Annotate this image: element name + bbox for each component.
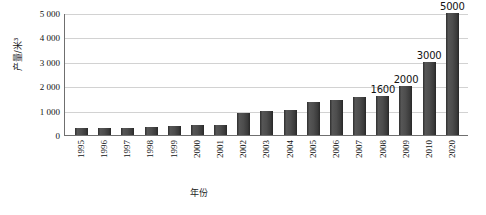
y-axis-tick-label: 1 000	[40, 107, 60, 117]
bar-slot: 5000	[441, 14, 464, 135]
x-label-slot: 1999	[162, 138, 185, 182]
bar-slot	[232, 14, 255, 135]
x-axis-tick-label: 2002	[238, 140, 248, 158]
bar-value-label: 1600	[370, 84, 395, 95]
bar-slot: 1600	[371, 14, 394, 135]
x-axis-title: 年份	[190, 186, 208, 199]
bar[interactable]	[145, 127, 158, 135]
x-axis-tick-label: 2009	[401, 140, 411, 158]
bar[interactable]	[98, 128, 111, 135]
bar-slot	[140, 14, 163, 135]
x-axis-tick-label: 2003	[261, 140, 271, 158]
x-axis-tick-label: 1998	[145, 140, 155, 158]
bar-slot	[93, 14, 116, 135]
x-label-slot: 2002	[232, 138, 255, 182]
x-label-slot: 2006	[325, 138, 348, 182]
bar[interactable]	[168, 126, 181, 135]
x-label-slot: 2001	[208, 138, 231, 182]
x-label-slot: 1996	[92, 138, 115, 182]
bar[interactable]	[191, 125, 204, 135]
x-label-slot: 2007	[348, 138, 371, 182]
x-axis-tick-label: 1997	[122, 140, 132, 158]
x-axis-tick-label: 1999	[169, 140, 179, 158]
bar-slot	[255, 14, 278, 135]
bar[interactable]	[330, 100, 343, 135]
bar-slot	[186, 14, 209, 135]
x-axis-tick-label: 2006	[331, 140, 341, 158]
bar[interactable]	[353, 97, 366, 135]
x-axis-tick-label: 2020	[447, 140, 457, 158]
y-axis-tick-label: 3 000	[40, 58, 60, 68]
bar[interactable]	[284, 110, 297, 135]
y-axis-tick-labels: 01 0002 0003 0004 0005 000	[22, 14, 60, 136]
x-axis-tick-label: 2010	[424, 140, 434, 158]
x-axis-tick-label: 2008	[378, 140, 388, 158]
bar[interactable]: 5000	[446, 13, 459, 135]
x-label-slot: 2005	[301, 138, 324, 182]
bar-value-label: 2000	[394, 74, 419, 85]
bar[interactable]: 3000	[423, 62, 436, 135]
bar[interactable]	[237, 113, 250, 135]
bar-slot: 2000	[394, 14, 417, 135]
bar[interactable]: 2000	[399, 86, 412, 135]
x-axis-tick-label: 1996	[99, 140, 109, 158]
y-axis-tick-label: 5 000	[40, 9, 60, 19]
x-label-slot: 2008	[371, 138, 394, 182]
x-label-slot: 2000	[185, 138, 208, 182]
bar-slot	[116, 14, 139, 135]
x-axis-tick-label: 1995	[76, 140, 86, 158]
x-label-slot: 1998	[139, 138, 162, 182]
bar-chart: 产量/米³ 01 0002 0003 0004 0005 000 1600200…	[0, 0, 486, 215]
x-axis-tick-label: 2007	[354, 140, 364, 158]
bar[interactable]	[260, 111, 273, 135]
y-axis-tick-label: 0	[56, 131, 61, 141]
bar[interactable]	[75, 128, 88, 135]
bar-slot	[302, 14, 325, 135]
x-axis-tick-label: 2004	[285, 140, 295, 158]
x-label-slot: 2003	[255, 138, 278, 182]
x-axis-tick-labels: 1995199619971998199920002001200220032004…	[64, 138, 468, 182]
x-label-slot: 1995	[69, 138, 92, 182]
bar-slot: 3000	[418, 14, 441, 135]
x-label-slot: 2020	[441, 138, 464, 182]
x-label-slot: 1997	[115, 138, 138, 182]
x-axis-tick-label: 2005	[308, 140, 318, 158]
bar-value-label: 5000	[440, 1, 465, 12]
bar-slot	[348, 14, 371, 135]
bar-slot	[279, 14, 302, 135]
bar-slot	[209, 14, 232, 135]
y-axis-tick-label: 2 000	[40, 82, 60, 92]
plot-area: 1600200030005000	[64, 14, 468, 136]
x-label-slot: 2009	[394, 138, 417, 182]
x-axis-tick-label: 2000	[192, 140, 202, 158]
bar-value-label: 3000	[417, 50, 442, 61]
bar-slot	[325, 14, 348, 135]
bar[interactable]: 1600	[376, 96, 389, 135]
x-label-slot: 2010	[418, 138, 441, 182]
bar[interactable]	[121, 128, 134, 135]
bar-slot	[163, 14, 186, 135]
bar-slot	[70, 14, 93, 135]
x-axis-tick-label: 2001	[215, 140, 225, 158]
bars-layer: 1600200030005000	[65, 14, 468, 135]
bar[interactable]	[307, 102, 320, 135]
y-axis-tick-label: 4 000	[40, 33, 60, 43]
x-label-slot: 2004	[278, 138, 301, 182]
bar[interactable]	[214, 125, 227, 135]
